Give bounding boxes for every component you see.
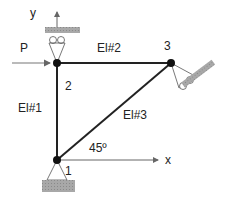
top-roller-left bbox=[50, 37, 57, 44]
angle-label: 45º bbox=[89, 141, 107, 155]
node-1 bbox=[53, 156, 61, 164]
node-2 bbox=[53, 59, 61, 67]
bottom-support-ground bbox=[42, 180, 75, 192]
structure-diagram: y x P El#2 El#1 El#3 2 3 1 45º bbox=[0, 0, 229, 199]
node-2-label: 2 bbox=[65, 79, 72, 93]
x-axis-label: x bbox=[165, 153, 171, 167]
load-label: P bbox=[20, 41, 28, 55]
element-1-label: El#1 bbox=[18, 101, 42, 115]
element-3 bbox=[57, 63, 171, 160]
top-support-ground bbox=[45, 27, 80, 33]
element-3-label: El#3 bbox=[123, 108, 147, 122]
y-axis-label: y bbox=[30, 6, 36, 20]
top-roller-right bbox=[58, 37, 65, 44]
node-3-support bbox=[171, 60, 215, 90]
element-2-label: El#2 bbox=[97, 41, 121, 55]
node-3 bbox=[167, 59, 175, 67]
node-1-label: 1 bbox=[65, 164, 72, 178]
node-3-label: 3 bbox=[164, 39, 171, 53]
